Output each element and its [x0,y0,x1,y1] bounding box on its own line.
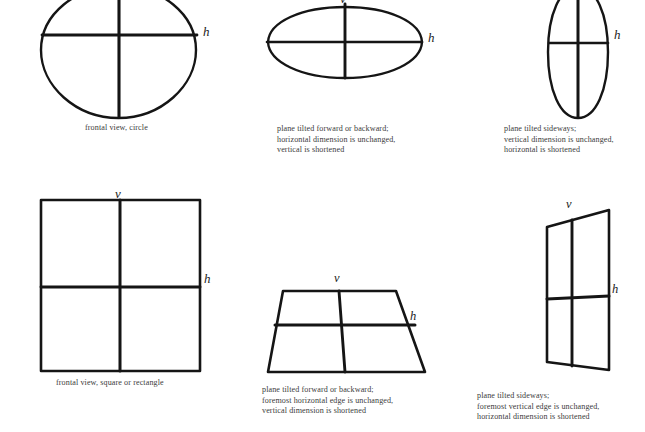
panel-ellipse-vertical [548,0,608,118]
figure-root: h v h h v h v h v h frontal view, circle… [0,0,645,432]
axis-label-v-trapezoid: v [334,272,340,285]
axis-label-v-ellipse-wide: v [340,0,346,5]
caption-ellipse-horizontal: plane tilted forward or backward; horizo… [277,124,396,156]
panel-circle-frontal [41,0,197,118]
quadrilateral-outline [547,210,609,370]
panel-square-frontal [41,200,200,371]
axis-label-h-ellipse-wide: h [428,31,435,44]
axis-label-v-square: v [115,187,121,200]
trapezoid-outline [268,291,425,372]
caption-trapezoid-forward: plane tilted forward or backward; foremo… [262,385,393,417]
axis-label-h-quadrilateral: h [612,283,618,296]
axis-label-v-quadrilateral: v [566,198,572,211]
figure-drawing [0,0,645,432]
panel-trapezoid-forward [268,291,425,372]
axis-label-h-square: h [204,272,211,285]
caption-square-frontal: frontal view, square or rectangle [56,378,164,389]
quadrilateral-horizontal-axis [547,296,609,299]
trapezoid-vertical-axis [339,291,345,372]
axis-label-h-circle: h [203,25,210,38]
axis-label-h-ellipse-tall: h [614,28,621,41]
panel-ellipse-horizontal [267,4,422,78]
caption-ellipse-vertical: plane tilted sideways; vertical dimensio… [504,124,614,156]
axis-label-h-trapezoid: h [410,310,416,323]
caption-parallelogram-sideways: plane tilted sideways; foremost vertical… [477,391,600,423]
panel-parallelogram-sideways [547,210,609,370]
caption-circle-frontal: frontal view, circle [85,123,148,134]
